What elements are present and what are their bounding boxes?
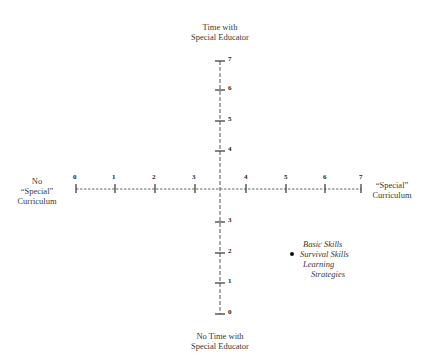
h-tick-5: 5 [284,173,288,181]
bullet-icon [290,252,294,256]
h-tick-3: 3 [192,173,196,181]
right-label-line-2: Curriculum [362,190,422,200]
legend: Basic Skills Survival Skills Learning St… [300,239,349,279]
legend-line-strategies: Strategies [300,269,349,279]
top-label-line-1: Time with [170,22,270,32]
left-label-line-3: Curriculum [10,196,64,206]
bottom-label-line-2: Special Educator [170,341,270,351]
v-tick-3: 3 [228,216,232,224]
left-label-line-1: No [10,176,64,186]
bottom-axis-label: No Time with Special Educator [170,331,270,351]
v-tick-7: 7 [228,55,232,63]
v-tick-5: 5 [228,115,232,123]
v-tick-2: 2 [228,247,232,255]
h-tick-7: 7 [359,173,363,181]
legend-line-basic-skills: Basic Skills [300,239,349,249]
h-tick-2: 2 [152,173,156,181]
v-tick-6: 6 [228,84,232,92]
h-tick-4: 4 [244,173,248,181]
left-axis-label: No “Special” Curriculum [10,176,64,206]
top-label-line-2: Special Educator [170,32,270,42]
right-axis-label: “Special” Curriculum [362,180,422,200]
right-label-line-1: “Special” [362,180,422,190]
h-tick-6: 6 [323,173,327,181]
h-tick-1: 1 [112,173,116,181]
v-tick-1: 1 [228,277,232,285]
h-tick-0: 0 [73,173,77,181]
v-tick-0: 0 [228,308,232,316]
v-tick-4: 4 [228,145,232,153]
horizontal-ticks [76,184,361,193]
bottom-label-line-1: No Time with [170,331,270,341]
legend-line-survival-skills: Survival Skills [300,249,349,259]
top-axis-label: Time with Special Educator [170,22,270,42]
legend-survival-text: Survival Skills [300,249,349,259]
left-label-line-2: “Special” [10,186,64,196]
legend-line-learning: Learning [300,259,349,269]
